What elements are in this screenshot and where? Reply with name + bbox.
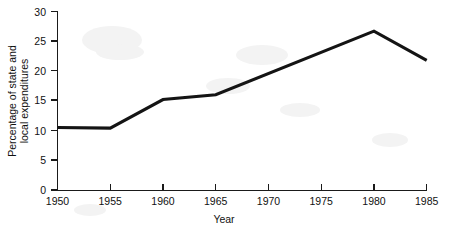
y-axis-title-line1: Percentage of state and	[6, 45, 18, 157]
x-axis-title: Year	[213, 213, 235, 225]
x-tick-label: 1980	[362, 195, 386, 207]
y-tick-label: 25	[34, 35, 46, 47]
x-tick-label: 1955	[99, 195, 123, 207]
chart-figure: 30 25 20 15 10 5 0 1950 1955 1960 1965 1…	[0, 0, 460, 232]
line-chart: 30 25 20 15 10 5 0 1950 1955 1960 1965 1…	[0, 0, 460, 232]
x-tick-label: 1970	[257, 195, 281, 207]
y-tick-label: 15	[34, 94, 46, 106]
x-tick-label: 1950	[46, 195, 70, 207]
y-tick-label: 20	[34, 65, 46, 77]
y-tick-label: 30	[34, 6, 46, 18]
y-tick-label: 10	[34, 125, 46, 137]
y-tick-label: 5	[40, 154, 46, 166]
x-tick-label: 1965	[204, 195, 228, 207]
x-tick-label: 1975	[310, 195, 334, 207]
y-axis-title: Percentage of state and local expenditur…	[6, 45, 30, 157]
x-tick-label: 1960	[151, 195, 175, 207]
x-tick-label: 1985	[415, 195, 439, 207]
y-axis-title-line2: local expenditures	[18, 59, 30, 144]
